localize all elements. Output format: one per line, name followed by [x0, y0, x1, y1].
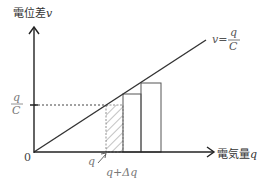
y-axis-label-var: v — [46, 7, 52, 20]
line-label-lhs: v= — [212, 33, 227, 46]
y-axis-label-text: 電位差 — [13, 7, 46, 20]
y-tick-numerator: q — [13, 91, 20, 104]
line-label-numerator: q — [230, 26, 237, 39]
line-label-denominator: C — [229, 40, 237, 53]
x-tick-q-plus-dq: q+Δq — [106, 166, 137, 179]
y-axis-label: 電位差v — [13, 4, 52, 20]
x-axis-label: 電気量q — [217, 145, 257, 161]
q-pointer — [98, 154, 106, 163]
x-axis-label-var: q — [250, 148, 257, 161]
bar-2 — [123, 94, 141, 152]
x-tick-q: q — [88, 155, 95, 168]
origin-label: 0 — [24, 151, 31, 164]
hatched-strip — [106, 105, 123, 152]
x-axis-label-text: 電気量 — [217, 148, 250, 161]
bar-3 — [141, 83, 161, 152]
y-tick-denominator: C — [12, 104, 20, 117]
